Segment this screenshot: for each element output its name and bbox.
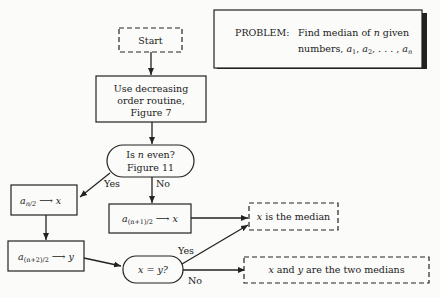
sort-routine-node: Use decreasing order routine, Figure 7: [96, 76, 206, 122]
compare-decision: x = y?: [123, 256, 183, 283]
two-medians-terminal: x and y are the two medians: [244, 257, 429, 283]
problem-box: PROBLEM: Find median of n given numbers,…: [214, 10, 427, 69]
is-even-decision: Is n even? Figure 11: [107, 145, 194, 177]
two-medians-label: x and y are the two medians: [268, 264, 404, 275]
is-even-line1: Is n even?: [126, 149, 175, 160]
edge-label-yes2: Yes: [177, 245, 194, 256]
assign-y-node: a(n+2)/2 ⟶ y: [8, 241, 84, 271]
assign-x-odd-node: a(n+1)/2 ⟶ x: [109, 204, 191, 233]
median-label: x is the median: [257, 211, 330, 222]
sort-line2: order routine,: [117, 95, 185, 106]
median-terminal: x is the median: [249, 203, 338, 230]
assign-x-even-node: an/2 ⟶ x: [11, 185, 77, 215]
sort-line1: Use decreasing: [114, 83, 189, 94]
start-label: Start: [138, 35, 163, 46]
compare-label: x = y?: [138, 264, 169, 275]
problem-line1: Find median of n given: [298, 27, 409, 38]
edge-label-yes1: Yes: [103, 178, 120, 189]
edge-y-to-compare: [84, 258, 121, 266]
sort-line3: Figure 7: [130, 107, 171, 118]
edge-label-no2: No: [188, 275, 202, 286]
start-node: Start: [119, 28, 182, 52]
problem-label: PROBLEM:: [235, 27, 290, 38]
is-even-line2: Figure 11: [127, 162, 174, 173]
edge-label-no1: No: [156, 178, 170, 189]
flowchart: PROBLEM: Find median of n given numbers,…: [0, 0, 440, 298]
